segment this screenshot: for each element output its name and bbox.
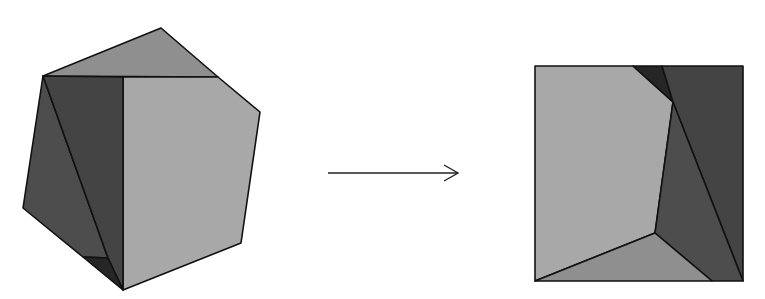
pentagon-piece-top-triangle <box>43 28 218 77</box>
arrow-icon <box>328 165 458 181</box>
pentagon-shape <box>23 28 260 290</box>
pentagon-piece-right-piece <box>123 77 260 290</box>
square-shape <box>535 66 743 281</box>
dissection-diagram <box>0 0 765 299</box>
